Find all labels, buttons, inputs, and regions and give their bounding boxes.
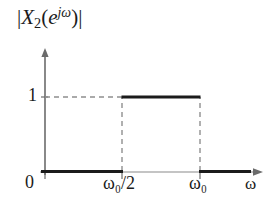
title-base: e — [48, 5, 57, 29]
x-tick-label-w0: ω₀ — [189, 174, 207, 192]
figure-title: |X2(ejω)| — [17, 6, 82, 30]
plot-canvas — [0, 0, 280, 214]
x-tick-label-w0-half: ω₀/2 — [103, 174, 135, 192]
x-tick-label-0: 0 — [25, 173, 34, 191]
title-exponent: jω — [58, 5, 72, 20]
y-axis — [41, 48, 48, 175]
title-close-bar: | — [78, 5, 82, 29]
y-axis-arrowhead — [41, 48, 48, 57]
figure-container: |X2(ejω)| 1 0 ω₀/2 ω₀ ω — [0, 0, 280, 214]
x-axis-title: ω — [245, 175, 256, 192]
y-tick-label-1: 1 — [28, 86, 37, 104]
title-symbol: X — [21, 5, 34, 29]
